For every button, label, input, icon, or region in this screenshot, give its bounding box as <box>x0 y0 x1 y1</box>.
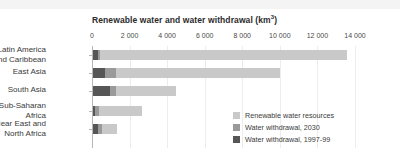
bar-segment[interactable] <box>93 50 347 60</box>
category-label: Near East and North Africa <box>0 119 46 138</box>
x-tick-label: 6 000 <box>196 32 214 39</box>
legend-label: Water withdrawal, 1997-99 <box>245 135 330 144</box>
chart-title-main: Renewable water and water withdrawal (km <box>92 15 271 25</box>
x-tick-label: 2 000 <box>121 32 139 39</box>
category-label: South Asia <box>0 85 46 95</box>
category-label: East Asia <box>0 67 46 77</box>
y-tick-mark <box>89 73 92 74</box>
x-tick-label: 10 000 <box>269 32 290 39</box>
legend-label: Renewable water resources <box>245 111 334 120</box>
legend-item[interactable]: Water withdrawal, 2030 <box>233 122 334 133</box>
y-tick-mark <box>89 129 92 130</box>
x-tick-label: 0 <box>90 32 94 39</box>
legend-swatch <box>233 112 240 119</box>
chart-title: Renewable water and water withdrawal (km… <box>92 14 277 25</box>
bar-row[interactable] <box>93 68 371 78</box>
bar-segment[interactable] <box>93 86 110 96</box>
bar-segment[interactable] <box>93 124 98 134</box>
legend-swatch <box>233 136 240 143</box>
bar-segment[interactable] <box>93 50 98 60</box>
bar-segment[interactable] <box>93 106 95 116</box>
bar-row[interactable] <box>93 86 371 96</box>
chart-legend: Renewable water resourcesWater withdrawa… <box>233 110 334 146</box>
legend-swatch <box>233 124 240 131</box>
paper-band <box>0 0 400 9</box>
x-tick-label: 4 000 <box>158 32 176 39</box>
y-tick-mark <box>89 55 92 56</box>
legend-item[interactable]: Renewable water resources <box>233 110 334 121</box>
category-label: Sub-Saharan Africa <box>0 101 46 120</box>
category-label: Latin America and Caribbean <box>0 45 46 64</box>
x-tick-label: 14 000 <box>344 32 365 39</box>
chart-figure: Renewable water and water withdrawal (km… <box>0 0 400 164</box>
y-tick-mark <box>89 91 92 92</box>
bar-segment[interactable] <box>93 68 280 78</box>
legend-item[interactable]: Water withdrawal, 1997-99 <box>233 134 334 145</box>
x-tick-label: 12 000 <box>307 32 328 39</box>
x-tick-label: 8 000 <box>234 32 252 39</box>
bar-segment[interactable] <box>93 68 105 78</box>
y-tick-mark <box>89 111 92 112</box>
bar-segment[interactable] <box>93 106 142 116</box>
legend-label: Water withdrawal, 2030 <box>245 123 320 132</box>
bar-row[interactable] <box>93 50 371 60</box>
chart-title-tail: ) <box>274 15 277 25</box>
